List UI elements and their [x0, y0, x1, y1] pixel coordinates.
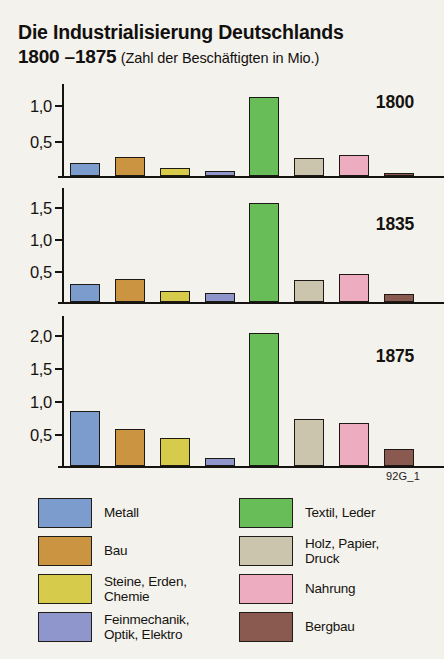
x-axis	[58, 302, 444, 304]
bar-holz-papier-druck	[294, 280, 324, 302]
bar-bau	[115, 429, 145, 466]
bar-group-1800	[70, 86, 414, 176]
legend-column-right: Textil, LederHolz, Papier, DruckNahrungB…	[227, 494, 428, 646]
legend-label: Steine, Erden, Chemie	[104, 574, 187, 605]
bar-bergbau	[384, 173, 414, 176]
bar-holz-papier-druck	[294, 419, 324, 466]
bar-textil-leder	[249, 97, 279, 176]
y-axis-tick-label: 1,0	[30, 230, 52, 249]
bar-bergbau	[384, 294, 414, 302]
bar-bergbau	[384, 449, 414, 466]
legend-label: Feinmechanik, Optik, Elektro	[104, 612, 189, 643]
plot-area-1835: 0,51,01,5	[62, 190, 422, 304]
y-axis-tick	[55, 335, 63, 337]
bar-steine-erden-chemie	[160, 438, 190, 466]
legend-swatch-steine	[38, 574, 92, 604]
y-axis-tick-label: 1,5	[30, 198, 52, 217]
y-axis-tick-label: 0,5	[30, 262, 52, 281]
x-axis	[58, 176, 444, 178]
y-axis-tick-label: 1,0	[30, 393, 52, 412]
legend-swatch-bergbau	[239, 612, 293, 642]
bar-group-1875	[70, 318, 414, 466]
bar-nahrung	[339, 423, 369, 466]
bar-holz-papier-druck	[294, 158, 324, 176]
page-title: Die Industrialisierung Deutschlands 1800…	[18, 20, 428, 70]
bar-bau	[115, 157, 145, 176]
bar-nahrung	[339, 155, 369, 176]
chart-panel-1835: 0,51,01,5 1835	[0, 190, 442, 304]
legend-item: Holz, Papier, Druck	[239, 532, 428, 570]
y-axis-tick-label: 1,5	[30, 360, 52, 379]
x-axis	[58, 466, 444, 468]
y-axis-tick-label: 1,0	[30, 97, 52, 116]
bar-textil-leder	[249, 333, 279, 466]
y-axis	[62, 84, 64, 178]
legend-item: Bergbau	[239, 608, 428, 646]
y-axis-tick	[55, 141, 63, 143]
bar-metall	[70, 411, 100, 466]
y-axis-tick-label: 2,0	[30, 327, 52, 346]
plot-area-1875: 0,51,01,52,0	[62, 318, 422, 468]
plot-area-1800: 0,51,0	[62, 86, 422, 178]
legend-label: Holz, Papier, Druck	[305, 536, 379, 567]
legend-label: Textil, Leder	[305, 505, 375, 521]
title-subtitle: (Zahl der Beschäftigten in Mio.)	[121, 50, 319, 66]
bar-feinmechanik-optik-elektro	[205, 293, 235, 302]
bar-metall	[70, 163, 100, 176]
legend-item: Nahrung	[239, 570, 428, 608]
chart-panel-1800: 0,51,0 1800	[0, 86, 442, 178]
y-axis-tick-label: 0,5	[30, 426, 52, 445]
bar-feinmechanik-optik-elektro	[205, 458, 235, 466]
y-axis-tick	[55, 401, 63, 403]
legend-swatch-bau	[38, 536, 92, 566]
legend-item: Metall	[38, 494, 227, 532]
legend-swatch-holz	[239, 536, 293, 566]
title-main: Die Industrialisierung Deutschlands	[18, 20, 428, 44]
title-secondary: 1800 –1875 (Zahl der Beschäftigten in Mi…	[18, 45, 428, 70]
y-axis-tick	[55, 434, 63, 436]
legend-label: Bergbau	[305, 619, 355, 635]
legend-label: Bau	[104, 543, 127, 559]
legend: MetallBauSteine, Erden, ChemieFeinmechan…	[14, 494, 428, 646]
y-axis	[62, 316, 64, 468]
bar-feinmechanik-optik-elektro	[205, 171, 235, 176]
bar-nahrung	[339, 274, 369, 302]
bar-steine-erden-chemie	[160, 291, 190, 302]
bar-metall	[70, 284, 100, 302]
panel-year-label: 1800	[376, 92, 414, 113]
legend-label: Metall	[104, 505, 139, 521]
bar-bau	[115, 279, 145, 302]
bar-steine-erden-chemie	[160, 168, 190, 176]
chart-panel-1875: 0,51,01,52,0 1875 92G_1	[0, 318, 442, 468]
legend-swatch-metall	[38, 498, 92, 528]
legend-item: Feinmechanik, Optik, Elektro	[38, 608, 227, 646]
bar-group-1835	[70, 190, 414, 302]
legend-column-left: MetallBauSteine, Erden, ChemieFeinmechan…	[14, 494, 227, 646]
title-year-range: 1800 –1875	[18, 46, 116, 67]
y-axis-tick	[55, 207, 63, 209]
panel-year-label: 1835	[376, 214, 414, 235]
legend-item: Textil, Leder	[239, 494, 428, 532]
y-axis-tick	[55, 239, 63, 241]
legend-item: Bau	[38, 532, 227, 570]
source-code: 92G_1	[386, 470, 420, 482]
legend-label: Nahrung	[305, 581, 355, 597]
y-axis-tick-label: 0,5	[30, 133, 52, 152]
y-axis	[62, 188, 64, 304]
y-axis-tick	[55, 368, 63, 370]
legend-swatch-textil	[239, 498, 293, 528]
y-axis-tick	[55, 105, 63, 107]
legend-swatch-nahrung	[239, 574, 293, 604]
panel-year-label: 1875	[376, 346, 414, 367]
legend-item: Steine, Erden, Chemie	[38, 570, 227, 608]
y-axis-tick	[55, 271, 63, 273]
bar-textil-leder	[249, 203, 279, 302]
legend-swatch-feinmechanik	[38, 612, 92, 642]
